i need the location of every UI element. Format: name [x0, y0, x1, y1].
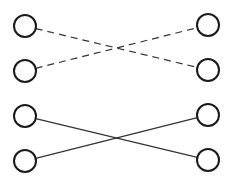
node-L4: [14, 150, 36, 172]
node-L2: [14, 60, 36, 82]
crossing-diagram: [0, 0, 230, 189]
edge-L2-R1: [36, 28, 198, 69]
node-L1: [14, 15, 36, 37]
node-R1: [197, 14, 219, 36]
node-R4: [197, 149, 219, 171]
node-L3: [14, 105, 36, 127]
edge-L4-R3: [36, 118, 198, 159]
edges: [36, 28, 198, 159]
node-R2: [197, 59, 219, 81]
nodes: [14, 14, 219, 172]
node-R3: [197, 104, 219, 126]
